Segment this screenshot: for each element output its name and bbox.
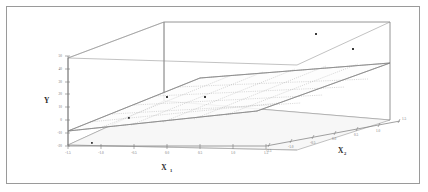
x2-tick-label: 1.0 [376, 129, 381, 133]
x2-tick-label: 1.5 [402, 117, 407, 121]
y-tick-label: 50 [59, 54, 63, 58]
x1-tick-label: -1.5 [65, 151, 71, 155]
y-tick-label: 30 [59, 80, 63, 84]
x2-tick-label: 0.5 [354, 133, 359, 137]
x2-tick-label: -1.5 [266, 149, 272, 153]
plot-canvas: 50 40 30 20 10 0 -10 -20 -1.5 -1.0 -0.5 … [0, 0, 428, 192]
y-tick-label: 40 [59, 67, 63, 71]
x1-tick-label: -0.5 [131, 151, 137, 155]
figure-root: 50 40 30 20 10 0 -10 -20 -1.5 -1.0 -0.5 … [0, 0, 428, 192]
y-axis-title: Y [44, 96, 50, 105]
y-tick-label: -10 [57, 131, 62, 135]
data-point-marker [166, 96, 168, 98]
x2-tick-label: -1.0 [288, 145, 294, 149]
y-tick-label: 0 [60, 118, 62, 122]
x1-tick-label: 0.0 [165, 151, 170, 155]
x1-axis-title: X [161, 163, 167, 172]
data-point-marker [91, 142, 93, 144]
box-top-face [68, 22, 390, 65]
x2-tick-label: 0.0 [332, 137, 337, 141]
x1-tick-label: -1.0 [98, 151, 104, 155]
x2-axis-title-subscript: 2 [344, 151, 347, 156]
y-tick-label: -20 [57, 144, 62, 148]
x1-tick-label: 1.0 [231, 151, 236, 155]
data-point-marker [128, 117, 130, 119]
x1-tick-label: 0.5 [198, 151, 203, 155]
y-tick-label: 10 [59, 105, 63, 109]
data-point-marker [352, 48, 354, 50]
data-point-marker [315, 33, 317, 35]
x1-axis-title-subscript: 1 [170, 168, 173, 173]
x2-tick-label: -0.5 [310, 141, 316, 145]
data-point-marker [204, 96, 206, 98]
y-tick-label: 20 [59, 92, 63, 96]
